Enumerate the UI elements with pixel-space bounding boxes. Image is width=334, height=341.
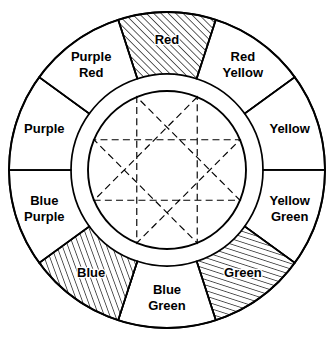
color-wheel-diagram: RedRedYellowYellowYellowGreenGreenBlueGr… (0, 0, 334, 341)
segment-label-purple: Purple (24, 122, 64, 137)
segment-label-line: Yellow (269, 122, 310, 137)
segment-label-blue-green: BlueGreen (148, 282, 186, 313)
segment-label-line: Red (155, 32, 180, 47)
segment-label-line: Green (271, 209, 309, 224)
color-wheel-figure: RedRedYellowYellowYellowGreenGreenBlueGr… (0, 0, 334, 341)
segment-label-line: Purple (24, 209, 64, 224)
segment-label-line: Green (224, 266, 262, 281)
segment-label-yellow: Yellow (269, 122, 310, 137)
segment-label-line: Red (231, 49, 256, 64)
segment-label-line: Red (79, 65, 104, 80)
segment-label-green: Green (224, 266, 262, 281)
segment-label-line: Purple (24, 122, 64, 137)
segment-label-line: Green (148, 298, 186, 313)
segment-label-line: Yellow (269, 193, 310, 208)
segment-label-yellow-green: YellowGreen (269, 193, 310, 224)
segment-label-red: Red (155, 32, 180, 47)
segment-label-line: Blue (77, 266, 105, 281)
segment-label-line: Blue (153, 282, 181, 297)
inner-circle (88, 91, 246, 249)
segment-label-blue: Blue (77, 266, 105, 281)
segment-label-line: Yellow (223, 65, 264, 80)
segment-label-line: Blue (30, 193, 58, 208)
segment-label-line: Purple (71, 49, 111, 64)
